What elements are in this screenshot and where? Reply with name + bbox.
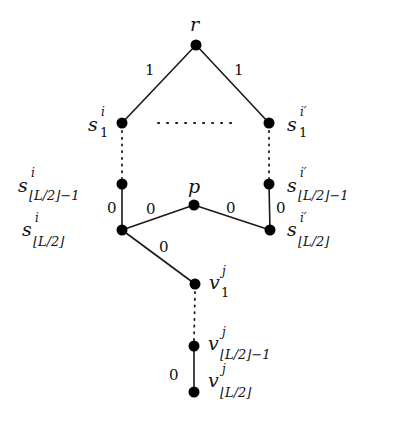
svg-text:i: i [31,166,35,180]
node-p [189,200,200,211]
label-s1i: s i 1 [88,105,108,140]
svg-text:s: s [18,174,28,196]
svg-text:s: s [22,218,32,240]
label-sLip: s i′ ⌊L/2⌋ [287,211,330,249]
svg-text:⌊L/2⌋: ⌊L/2⌋ [220,385,252,400]
edge-left-to-p [122,205,194,230]
svg-text:i: i [35,211,39,225]
weight-r-right: 1 [234,61,244,79]
svg-text:i′: i′ [300,105,307,119]
node-vLm1j [189,341,200,352]
weight-left-to-p: 0 [146,200,156,218]
svg-text:j: j [219,325,226,339]
node-sLi [117,225,128,236]
label-sLm1ip: s i′ ⌊L/2⌋−1 [287,166,349,203]
svg-text:v: v [208,369,219,391]
graph-diagram: 1 1 0 0 0 0 0 0 r p s i 1 s i′ 1 s i ⌊L/… [0,0,395,427]
svg-text:⌊L/2⌋: ⌊L/2⌋ [298,234,330,249]
node-labels: r p s i 1 s i′ 1 s i ⌊L/2⌋−1 s i′ ⌊L/2⌋−… [18,13,349,400]
edge-r-s1ip [196,45,269,123]
dotted-edge-v-column [194,292,195,340]
svg-text:1: 1 [100,125,108,140]
svg-text:i: i [101,105,105,119]
node-r [191,40,202,51]
nodes [117,40,276,398]
svg-text:v: v [208,332,219,354]
weight-left-vertical: 0 [107,199,117,217]
weight-v-bottom: 0 [169,366,179,384]
label-vLj: v j ⌊L/2⌋ [208,362,252,400]
label-r: r [190,13,201,35]
node-sLm1i [117,179,128,190]
svg-text:j: j [219,264,226,278]
svg-text:s: s [287,113,297,135]
svg-text:⌊L/2⌋−1: ⌊L/2⌋−1 [298,188,349,203]
svg-text:i′: i′ [300,211,307,225]
svg-text:i′: i′ [300,166,307,180]
weight-p-to-right: 0 [226,199,236,217]
label-v1j: v j 1 [209,264,229,300]
svg-text:s: s [287,174,297,196]
edges [122,45,270,392]
edge-r-s1i [122,45,196,123]
edge-right-vertical [269,184,270,230]
label-sLi: s i ⌊L/2⌋ [22,211,65,249]
label-sLm1i: s i ⌊L/2⌋−1 [18,166,80,203]
svg-text:s: s [88,113,98,135]
svg-text:⌊L/2⌋−1: ⌊L/2⌋−1 [220,347,271,362]
weight-left-to-v: 0 [159,238,169,256]
svg-text:v: v [209,271,220,293]
svg-text:⌊L/2⌋−1: ⌊L/2⌋−1 [29,188,80,203]
label-s1ip: s i′ 1 [287,105,307,140]
label-p: p [188,175,200,197]
svg-text:j: j [219,362,226,376]
label-vLm1j: v j ⌊L/2⌋−1 [208,325,271,362]
node-s1ip [264,118,275,129]
node-vLj [189,387,200,398]
svg-text:1: 1 [299,125,307,140]
node-sLip [265,225,276,236]
weight-r-left: 1 [145,61,155,79]
weight-right-vertical: 0 [276,199,286,217]
node-s1i [117,118,128,129]
node-sLm1ip [264,179,275,190]
svg-text:⌊L/2⌋: ⌊L/2⌋ [33,234,65,249]
svg-text:1: 1 [221,285,229,300]
node-v1j [190,279,201,290]
svg-text:s: s [287,218,297,240]
